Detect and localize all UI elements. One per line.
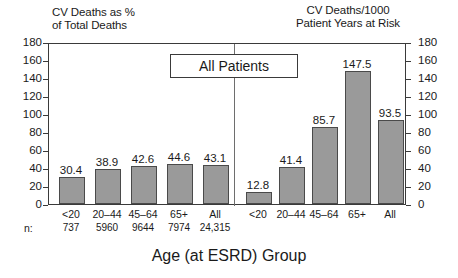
x-axis-title: Age (at ESRD) Group <box>0 247 458 265</box>
right-y-tick-label: 80 <box>418 127 452 139</box>
category-label: All <box>193 208 237 220</box>
right-y-tick <box>406 97 411 98</box>
bar <box>345 71 371 204</box>
left-y-tick-label: 100 <box>8 109 42 121</box>
right-y-tick-label: 120 <box>418 91 452 103</box>
left-y-tick-label: 60 <box>8 145 42 157</box>
right-panel-title: CV Deaths/1000 Patient Years at Risk <box>296 4 400 30</box>
right-y-tick-label: 60 <box>418 145 452 157</box>
right-y-tick-label: 40 <box>418 163 452 175</box>
bar <box>279 167 305 204</box>
right-y-tick <box>406 187 411 188</box>
right-y-tick <box>406 169 411 170</box>
n-value: 24,315 <box>191 222 239 234</box>
bar-value-label: 12.8 <box>237 179 279 191</box>
bar <box>167 164 193 204</box>
right-y-tick <box>406 133 411 134</box>
bar-value-label: 93.5 <box>369 107 411 119</box>
bar-value-label: 147.5 <box>336 58 378 70</box>
all-patients-callout: All Patients <box>170 54 298 78</box>
bar <box>246 192 272 204</box>
right-y-tick <box>406 79 411 80</box>
left-y-tick-label: 0 <box>8 199 42 211</box>
bar <box>312 127 338 204</box>
left-panel-title: CV Deaths as % of Total Deaths <box>52 6 135 32</box>
right-y-tick <box>406 43 411 44</box>
right-y-tick-label: 140 <box>418 73 452 85</box>
right-y-tick <box>406 61 411 62</box>
left-y-tick-label: 160 <box>8 55 42 67</box>
n-prefix-label: n: <box>24 222 33 234</box>
left-y-tick-label: 120 <box>8 91 42 103</box>
right-y-tick-label: 0 <box>418 199 452 211</box>
bar <box>59 177 85 204</box>
category-label: All <box>368 208 412 220</box>
left-y-tick-label: 40 <box>8 163 42 175</box>
right-y-tick <box>406 205 411 206</box>
all-patients-label: All Patients <box>199 58 269 74</box>
left-y-tick-label: 140 <box>8 73 42 85</box>
right-y-tick-label: 20 <box>418 181 452 193</box>
left-y-tick-label: 180 <box>8 37 42 49</box>
chart-figure: CV Deaths as % of Total Deaths CV Deaths… <box>0 0 458 278</box>
left-y-tick-label: 80 <box>8 127 42 139</box>
bar <box>203 165 229 204</box>
bar-value-label: 85.7 <box>303 114 345 126</box>
right-y-tick-label: 180 <box>418 37 452 49</box>
left-y-tick-label: 20 <box>8 181 42 193</box>
right-y-tick-label: 160 <box>418 55 452 67</box>
bar-value-label: 43.1 <box>194 152 236 164</box>
right-y-tick <box>406 151 411 152</box>
bar <box>378 120 404 204</box>
right-y-tick-label: 100 <box>418 109 452 121</box>
bar <box>131 166 157 204</box>
bar <box>95 169 121 204</box>
bar-value-label: 41.4 <box>270 154 312 166</box>
